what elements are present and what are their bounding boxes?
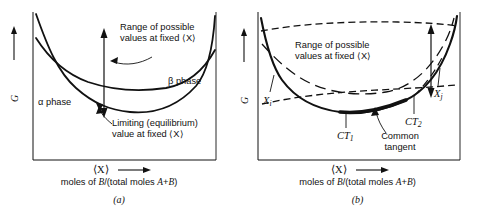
- x-axis-symbol-a: ⟨X⟩: [93, 164, 109, 175]
- x-caption-suffix-b: ): [413, 177, 416, 187]
- alpha-phase-label: α phase: [38, 97, 71, 108]
- limiting-annotation-line1-a: Limiting (equilibrium): [112, 118, 198, 128]
- panel-b: G Range of possible values at fixed ⟨X⟩ …: [238, 0, 477, 214]
- limiting-annotation-line2-a: value at fixed ⟨X⟩: [112, 129, 184, 139]
- figure-container: G Range of possible values at fixed ⟨X⟩ …: [0, 0, 477, 214]
- g-axis-arrow-head-b: [241, 28, 247, 36]
- limiting-annotation-a: Limiting (equilibrium) value at fixed ⟨X…: [112, 118, 198, 140]
- label-x-i-sub: i: [269, 99, 271, 108]
- tick-leader-xi: [270, 75, 274, 92]
- g-axis-arrow-head-a: [11, 26, 17, 34]
- x-axis-arrow-head-b: [381, 167, 389, 173]
- x-caption-prefix-a: moles of: [61, 177, 99, 187]
- x-caption-mid-b: /(total moles: [343, 177, 396, 187]
- label-x-i: Xi: [263, 95, 272, 109]
- range-annotation-line1-b: Range of possible: [295, 40, 369, 50]
- x-axis-caption-a: moles of B/(total moles A+B): [0, 177, 238, 188]
- range-leader-arrowhead-a: [110, 57, 118, 64]
- x-caption-suffix-a: ): [174, 177, 177, 187]
- range-annotation-line1-a: Range of possible: [120, 22, 194, 32]
- x-axis-arrow-head-a: [143, 167, 151, 173]
- x-caption-prefix-b: moles of: [299, 177, 337, 187]
- label-ct-1-base: CT: [337, 130, 350, 141]
- range-annotation-a: Range of possible values at fixed ⟨X⟩: [120, 22, 196, 44]
- range-leader-curve-a: [114, 57, 152, 64]
- x-axis-caption-b: moles of B/(total moles A+B): [238, 177, 477, 188]
- range-annotation-b: Range of possible values at fixed ⟨X⟩: [295, 40, 371, 62]
- label-ct-1-sub: 1: [350, 134, 354, 143]
- y-axis-label-b: G: [239, 97, 250, 104]
- range-annotation-line2-b: values at fixed ⟨X⟩: [295, 51, 371, 61]
- common-tangent-segment: [340, 100, 406, 112]
- common-tangent-line2: tangent: [384, 142, 415, 152]
- upper-bound-dashed-curve: [261, 22, 458, 31]
- y-axis-label-a: G: [9, 95, 20, 102]
- common-tangent-line1: Common: [381, 131, 419, 141]
- label-ct-1: CT1: [337, 130, 354, 144]
- panel-caption-b: (b): [238, 194, 477, 205]
- panel-caption-a: (a): [0, 194, 238, 205]
- label-x-j: Xj: [434, 88, 443, 102]
- range-annotation-line2-a: values at fixed ⟨X⟩: [120, 33, 196, 43]
- label-x-j-sub: j: [440, 92, 442, 101]
- common-tangent-annotation: Common tangent: [374, 131, 426, 153]
- label-ct-2: CT2: [405, 116, 422, 130]
- beta-phase-label: β phase: [168, 76, 201, 87]
- range-arrow-head-top-a: [101, 28, 108, 38]
- x-axis-symbol-b: ⟨X⟩: [331, 164, 347, 175]
- label-ct-2-base: CT: [405, 116, 418, 127]
- x-caption-mid-a: /(total moles: [104, 177, 157, 187]
- label-ct-2-sub: 2: [418, 120, 422, 129]
- panel-a: G Range of possible values at fixed ⟨X⟩ …: [0, 0, 238, 214]
- range-arrow-head-top-b: [428, 24, 435, 34]
